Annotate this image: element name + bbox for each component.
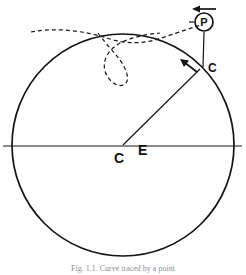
figure-diagram: P C C E xyxy=(0,0,246,275)
label-circle-point-c: C xyxy=(208,61,217,75)
radius-line xyxy=(123,69,200,145)
figure-caption: Fig. 1.1. Curve traced by a point xyxy=(0,263,246,274)
label-earth-e: E xyxy=(138,142,147,158)
radius-arm-to-p xyxy=(203,32,204,67)
arrow-left-icon xyxy=(192,6,216,13)
label-tracing-point-p: P xyxy=(200,16,207,28)
figure-container: P C C E Fig. 1.1. Curve traced by a poin… xyxy=(0,0,246,275)
label-center-c: C xyxy=(114,150,124,166)
